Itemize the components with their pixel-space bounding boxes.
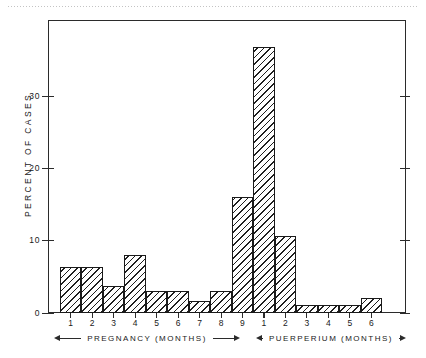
- bar-puerperium-4: [318, 305, 339, 313]
- x-tick-label-9: 9: [234, 318, 250, 328]
- group-label-puerperium: PUERPERIUM (MONTHS): [256, 330, 406, 346]
- bar-pregnancy-7: [189, 301, 210, 313]
- bar-pregnancy-6: [167, 291, 188, 313]
- bar-puerperium-5: [339, 305, 360, 313]
- bar-pregnancy-2: [81, 267, 102, 313]
- x-tick-label-12: 3: [299, 318, 315, 328]
- x-tick-label-15: 6: [363, 318, 379, 328]
- bar-pregnancy-4: [124, 255, 145, 313]
- x-tick-label-8: 8: [213, 318, 229, 328]
- x-tick-label-14: 5: [342, 318, 358, 328]
- y-tick-right-0: [400, 313, 410, 314]
- bar-pregnancy-9: [232, 197, 253, 313]
- x-tick-label-4: 4: [127, 318, 143, 328]
- bar-pregnancy-3: [103, 286, 124, 313]
- bar-puerperium-1: [253, 47, 274, 313]
- bar-pregnancy-5: [146, 291, 167, 313]
- x-tick-label-5: 5: [149, 318, 165, 328]
- bar-puerperium-3: [296, 305, 317, 313]
- x-tick-label-10: 1: [256, 318, 272, 328]
- arrow-right-icon: [400, 335, 406, 341]
- bar-pregnancy-8: [210, 291, 231, 313]
- group-label-puerperium-text: PUERPERIUM (MONTHS): [263, 334, 399, 343]
- x-tick-label-3: 3: [106, 318, 122, 328]
- x-tick-label-13: 4: [320, 318, 336, 328]
- bar-pregnancy-1: [60, 267, 81, 313]
- group-label-pregnancy-text: PREGNANCY (MONTHS): [81, 334, 213, 343]
- x-tick-label-7: 7: [192, 318, 208, 328]
- x-tick-label-6: 6: [170, 318, 186, 328]
- group-label-pregnancy: PREGNANCY (MONTHS): [54, 330, 240, 346]
- arrow-right-icon: [234, 335, 240, 341]
- bar-puerperium-6: [361, 298, 382, 313]
- y-axis-title: PERCENT OF CASES: [23, 85, 33, 225]
- y-tick-0: [42, 313, 54, 314]
- x-tick-label-1: 1: [63, 318, 79, 328]
- bars-layer: [48, 20, 406, 313]
- rule-left: [60, 338, 81, 339]
- rule-right: [213, 338, 234, 339]
- y-tick-label-0: 0: [18, 308, 40, 318]
- x-tick-label-11: 2: [277, 318, 293, 328]
- y-tick-label-30: 30: [18, 91, 40, 101]
- y-tick-label-10: 10: [18, 235, 40, 245]
- bar-puerperium-2: [275, 236, 296, 313]
- x-tick-label-2: 2: [84, 318, 100, 328]
- y-tick-label-20: 20: [18, 163, 40, 173]
- histogram-figure: PERCENT OF CASES 0 10 20 30 123456789123…: [0, 0, 426, 358]
